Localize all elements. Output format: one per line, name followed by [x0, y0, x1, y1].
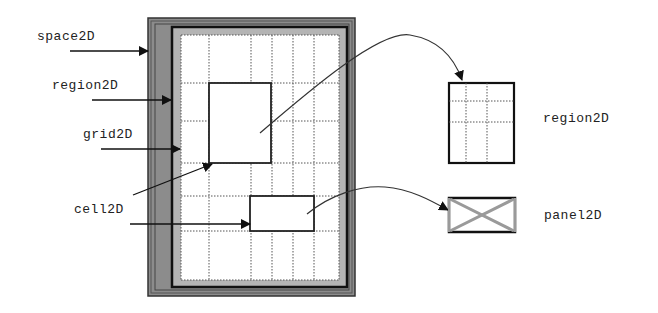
panel2d-box — [449, 198, 515, 232]
label-space2d: space2D — [37, 29, 95, 44]
diagram-svg — [0, 0, 658, 313]
cell2d-large — [209, 83, 271, 163]
label-grid2d: grid2D — [83, 127, 133, 142]
label-region2d-left: region2D — [52, 78, 118, 93]
label-region2d-right: region2D — [543, 111, 609, 126]
diagram-canvas: space2D region2D grid2D cell2D region2D … — [0, 0, 658, 313]
label-panel2d: panel2D — [544, 208, 602, 223]
label-cell2d: cell2D — [74, 202, 124, 217]
region2d-detail-box — [449, 83, 514, 163]
cell2d-small — [250, 196, 314, 231]
